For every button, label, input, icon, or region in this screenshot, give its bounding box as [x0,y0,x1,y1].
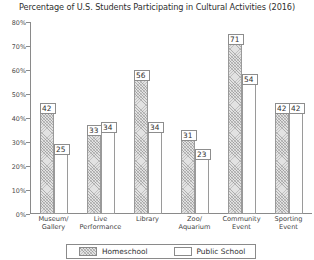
y-tick-mark [26,46,30,47]
y-tick-mark [26,214,30,215]
bar-public-school [195,159,209,214]
bar-value-label: 23 [195,149,211,160]
y-tick-label: 50% [2,91,26,99]
bar-public-school [101,132,115,214]
y-tick-label: 40% [2,115,26,123]
bar-public-school [54,154,68,214]
chart-legend: Homeschool Public School [66,244,256,259]
bar-homeschool [87,135,101,214]
bar-public-school [148,132,162,214]
y-tick-mark [26,190,30,191]
bar-homeschool [228,44,242,214]
bar-value-label: 42 [40,103,56,114]
x-category-label: Live Performance [77,216,124,231]
y-tick-mark [26,118,30,119]
y-tick-label: 60% [2,67,26,75]
bar-value-label: 25 [54,144,70,155]
chart-title: Percentage of U.S. Students Participatin… [0,2,314,12]
x-category-label: Sporting Event [265,216,312,231]
y-tick-label: 80% [2,19,26,27]
bar-homeschool [134,80,148,214]
x-category-label: Zoo/ Aquarium [171,216,218,231]
legend-label-public-school: Public School [197,247,246,256]
bar-value-label: 71 [228,34,244,45]
x-category-label: Library [124,216,171,224]
legend-swatch-public-school-icon [174,247,192,256]
x-category-label: Community Event [218,216,265,231]
x-category-label: Museum/ Gallery [30,216,77,231]
bar-homeschool [181,140,195,214]
plot-area: 422533345634312371544242 [30,22,312,214]
bar-value-label: 42 [289,103,305,114]
legend-item-public-school: Public School [174,247,246,256]
y-tick-label: 70% [2,43,26,51]
y-tick-label: 30% [2,139,26,147]
y-tick-mark [26,142,30,143]
bar-chart: Percentage of U.S. Students Participatin… [0,0,314,260]
bar-homeschool [275,113,289,214]
bar-value-label: 54 [242,74,258,85]
y-tick-mark [26,22,30,23]
y-tick-label: 20% [2,163,26,171]
legend-item-homeschool: Homeschool [79,247,148,256]
x-axis-line [30,213,312,214]
bar-value-label: 34 [148,122,164,133]
bar-public-school [289,113,303,214]
y-tick-mark [26,166,30,167]
bar-value-label: 56 [134,70,150,81]
bar-value-label: 34 [101,122,117,133]
y-tick-label: 10% [2,187,26,195]
bar-homeschool [40,113,54,214]
bar-public-school [242,84,256,214]
y-tick-label: 0% [2,211,26,219]
y-tick-mark [26,94,30,95]
y-axis-line [30,22,31,214]
bar-value-label: 31 [181,130,197,141]
y-tick-mark [26,70,30,71]
legend-swatch-homeschool-icon [79,247,97,256]
legend-label-homeschool: Homeschool [102,247,148,256]
